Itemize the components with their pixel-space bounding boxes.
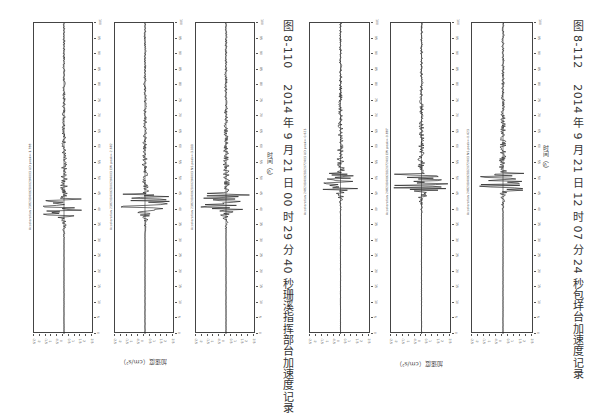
time-tick-label: 10 xyxy=(374,300,378,304)
tick-mark xyxy=(483,334,484,336)
time-tick-label: 75 xyxy=(455,98,459,102)
tick-mark xyxy=(452,193,454,194)
time-tick-label: 85 xyxy=(537,67,541,71)
tick-mark xyxy=(452,255,454,256)
time-tick-label: 55 xyxy=(374,160,378,164)
tick-mark xyxy=(452,286,454,287)
time-tick-label: 5 xyxy=(454,316,458,318)
tick-mark xyxy=(371,131,373,132)
time-axis-title: 时间（s） xyxy=(541,145,550,172)
time-tick-label: 100 xyxy=(538,19,542,25)
time-axis: 0510152025303540455055606570758085909510… xyxy=(534,22,542,333)
tick-mark xyxy=(495,334,496,336)
time-tick-label: 25 xyxy=(374,253,378,257)
tick-mark xyxy=(471,334,472,336)
tick-mark xyxy=(371,286,373,287)
accel-tick-label: 0 xyxy=(498,340,502,342)
accel-axis: -2.5-2-1.5-1-0.500.511.522.5 xyxy=(309,334,370,348)
time-axis: 0510152025303540455055606570758085909510… xyxy=(371,22,379,333)
time-tick-label: 35 xyxy=(374,222,378,226)
accel-tick-label: -2 xyxy=(475,339,479,342)
tick-mark xyxy=(449,334,450,336)
tick-mark xyxy=(371,240,373,241)
time-tick-label: 80 xyxy=(374,82,378,86)
accel-tick-label: 2 xyxy=(522,340,526,342)
time-tick-label: 60 xyxy=(455,144,459,148)
tick-mark xyxy=(452,302,454,303)
tick-mark xyxy=(339,334,340,336)
panel-label: Acceleration 2482014092112072403 EW peak… xyxy=(385,105,389,215)
accel-tick-label: -1.5 xyxy=(320,338,324,344)
caption-text: 2014 年 9 月 21 日 12 时 07 分 24 秒包垟台加速度记录 xyxy=(571,84,584,379)
tick-mark xyxy=(371,224,373,225)
accel-tick-label: -2.5 xyxy=(470,338,474,344)
time-tick-label: 0 xyxy=(454,332,458,334)
time-tick-label: 65 xyxy=(537,129,541,133)
tick-mark xyxy=(452,53,454,54)
tick-mark xyxy=(371,115,373,116)
accel-tick-label: 1.5 xyxy=(518,338,522,343)
time-tick-label: 50 xyxy=(537,175,541,179)
time-tick-label: 20 xyxy=(455,269,459,273)
time-tick-label: 75 xyxy=(537,98,541,102)
tick-mark xyxy=(371,84,373,85)
accel-tick-label: 0 xyxy=(336,340,340,342)
tick-mark xyxy=(362,334,363,336)
time-tick-label: 95 xyxy=(537,36,541,40)
waveform-trace xyxy=(391,23,452,334)
time-tick-label: 65 xyxy=(455,129,459,133)
time-tick-label: 85 xyxy=(374,67,378,71)
accel-tick-label: -1 xyxy=(405,339,409,342)
time-tick-label: 70 xyxy=(374,113,378,117)
tick-mark xyxy=(534,178,536,179)
tick-mark xyxy=(327,334,328,336)
tick-mark xyxy=(371,271,373,272)
tick-mark xyxy=(350,334,351,336)
tick-mark xyxy=(519,334,520,336)
accel-tick-label: 1 xyxy=(428,340,432,342)
time-tick-label: 0 xyxy=(536,332,540,334)
tick-mark xyxy=(534,22,536,23)
tick-mark xyxy=(371,162,373,163)
time-tick-label: 50 xyxy=(374,175,378,179)
time-tick-label: 25 xyxy=(455,253,459,257)
accel-tick-label: 2 xyxy=(359,340,363,342)
tick-mark xyxy=(534,115,536,116)
time-tick-label: 80 xyxy=(455,82,459,86)
time-tick-label: 10 xyxy=(455,300,459,304)
tick-mark xyxy=(534,255,536,256)
time-tick-label: 0 xyxy=(373,332,377,334)
tick-mark xyxy=(531,334,532,336)
time-tick-label: 75 xyxy=(374,98,378,102)
time-tick-label: 95 xyxy=(455,36,459,40)
tick-mark xyxy=(371,255,373,256)
tick-mark xyxy=(534,162,536,163)
tick-mark xyxy=(452,69,454,70)
tick-mark xyxy=(368,334,369,336)
time-tick-label: 90 xyxy=(537,51,541,55)
time-tick-label: 70 xyxy=(537,113,541,117)
tick-mark xyxy=(420,334,421,336)
accel-tick-label: -1 xyxy=(487,339,491,342)
tick-mark xyxy=(534,286,536,287)
time-tick-label: 25 xyxy=(537,253,541,257)
time-tick-label: 10 xyxy=(537,300,541,304)
tick-mark xyxy=(534,69,536,70)
accel-axis-title: 加速度（cm/s²） xyxy=(396,360,443,369)
time-tick-label: 15 xyxy=(455,284,459,288)
time-tick-label: 30 xyxy=(537,238,541,242)
time-tick-label: 45 xyxy=(374,191,378,195)
time-tick-label: 70 xyxy=(455,113,459,117)
time-tick-label: 30 xyxy=(455,238,459,242)
tick-mark xyxy=(452,84,454,85)
time-tick-label: 15 xyxy=(537,284,541,288)
accel-tick-label: 2.5 xyxy=(530,338,534,343)
tick-mark xyxy=(344,334,345,336)
tick-mark xyxy=(333,334,334,336)
tick-mark xyxy=(371,22,373,23)
time-tick-label: 90 xyxy=(455,51,459,55)
panel-label: Acceleration 2482014092112072403 NS peak… xyxy=(466,105,470,215)
tick-mark xyxy=(390,334,391,336)
tick-mark xyxy=(414,334,415,336)
tick-mark xyxy=(534,302,536,303)
